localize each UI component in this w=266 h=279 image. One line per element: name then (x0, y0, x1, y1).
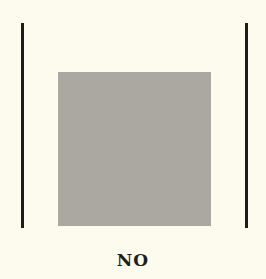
right-vertical-line (245, 23, 248, 228)
left-vertical-line (21, 23, 24, 228)
caption-label: NO (0, 250, 266, 270)
gray-square (58, 72, 211, 226)
